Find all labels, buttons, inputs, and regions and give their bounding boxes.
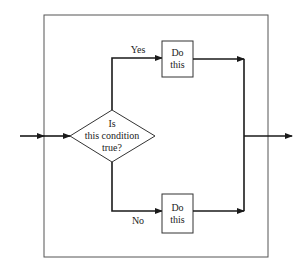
- flowchart-diagram: Is this condition true? Yes Do this No D…: [0, 0, 303, 272]
- no-branch: [112, 162, 162, 211]
- yes-branch: [112, 58, 162, 110]
- decision-text-line-1: Is: [108, 118, 115, 129]
- no-action-line-2: this: [170, 214, 185, 225]
- decision-text-line-3: true?: [102, 142, 123, 153]
- no-label: No: [132, 215, 144, 226]
- no-action-line-1: Do: [171, 202, 183, 213]
- yes-action-line-1: Do: [171, 47, 183, 58]
- yes-label: Yes: [131, 44, 146, 55]
- decision-text-line-2: this condition: [85, 130, 140, 141]
- yes-action-line-2: this: [170, 59, 185, 70]
